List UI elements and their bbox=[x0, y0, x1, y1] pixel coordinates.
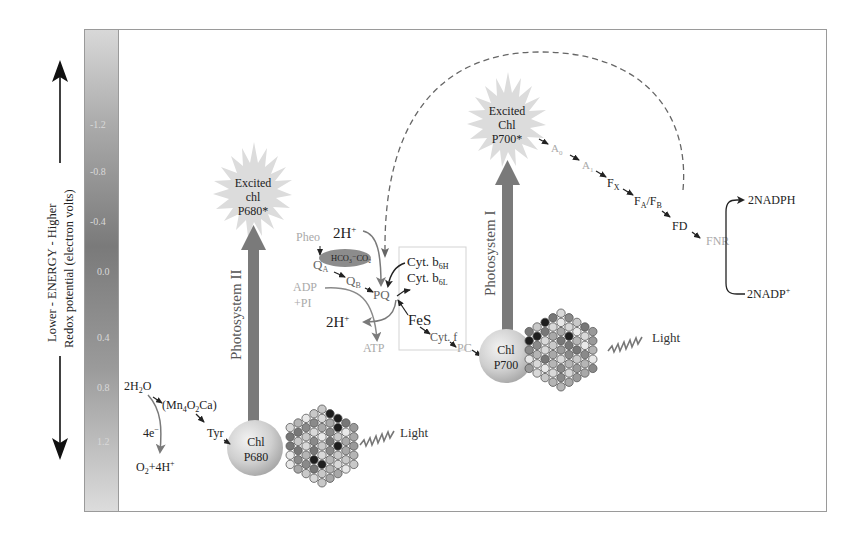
pigment-molecule bbox=[334, 451, 342, 459]
pigment-molecule bbox=[294, 428, 302, 436]
pigment-molecule bbox=[533, 369, 541, 377]
nadp-label: 2NADP+ bbox=[747, 286, 791, 301]
mn-complex-label: (Mn4O2Ca) bbox=[162, 398, 217, 414]
energy-axis: Lower - ENERGY - Higher Redox potential … bbox=[45, 60, 76, 460]
pigment-molecule bbox=[549, 314, 557, 322]
pigment-molecule bbox=[302, 469, 310, 477]
pigment-molecule bbox=[294, 419, 302, 427]
tick-label: 0.8 bbox=[97, 382, 110, 393]
water-label: 2H2O bbox=[124, 379, 152, 395]
pigment-molecule bbox=[589, 364, 597, 372]
bicarbonate-label: HCO₃⁻CO₂ bbox=[331, 253, 371, 263]
pigment-molecule bbox=[549, 378, 557, 386]
pigment-molecule bbox=[318, 423, 326, 431]
tick-label: 0.0 bbox=[97, 266, 110, 277]
pigment-molecule bbox=[541, 337, 549, 345]
pigment-molecule bbox=[334, 414, 342, 422]
pigment-molecule bbox=[589, 355, 597, 363]
tick-label: -0.4 bbox=[90, 216, 106, 227]
pigment-molecule bbox=[318, 414, 326, 422]
adp-label: ADP bbox=[293, 280, 317, 294]
pigment-molecule bbox=[326, 419, 334, 427]
pigment-molecule bbox=[573, 318, 581, 326]
pigment-molecule bbox=[318, 442, 326, 450]
pigment-molecule bbox=[573, 327, 581, 335]
pigment-molecule bbox=[525, 364, 533, 372]
photosystem-1-label: Photosystem I bbox=[482, 211, 498, 296]
pigment-molecule bbox=[350, 460, 358, 468]
pigment-molecule bbox=[350, 423, 358, 431]
pigment-molecule bbox=[286, 442, 294, 450]
pigment-molecule bbox=[541, 318, 549, 326]
pigment-molecule bbox=[310, 456, 318, 464]
pigment-molecule bbox=[541, 346, 549, 354]
pi-label: +PI bbox=[294, 296, 311, 310]
pigment-molecule bbox=[533, 360, 541, 368]
pigment-molecule bbox=[541, 327, 549, 335]
pigment-molecule bbox=[533, 323, 541, 331]
pigment-molecule bbox=[525, 337, 533, 345]
pigment-molecule bbox=[326, 474, 334, 482]
pigment-molecule bbox=[525, 355, 533, 363]
pigment-molecule bbox=[326, 428, 334, 436]
pigment-molecule bbox=[557, 346, 565, 354]
pigment-molecule bbox=[302, 442, 310, 450]
pheo-label: Pheo bbox=[296, 230, 320, 244]
pigment-molecule bbox=[310, 437, 318, 445]
pigment-molecule bbox=[581, 332, 589, 340]
pigment-molecule bbox=[302, 423, 310, 431]
pigment-molecule bbox=[525, 346, 533, 354]
pigment-molecule bbox=[541, 364, 549, 372]
pigment-molecule bbox=[286, 433, 294, 441]
pigment-molecule bbox=[302, 451, 310, 459]
pigment-molecule bbox=[318, 479, 326, 487]
pigment-molecule bbox=[581, 341, 589, 349]
pigment-molecule bbox=[310, 465, 318, 473]
pigment-molecule bbox=[342, 446, 350, 454]
pigment-molecule bbox=[557, 373, 565, 381]
pigment-molecule bbox=[334, 469, 342, 477]
z-scheme-diagram: -1.2 -0.8 -0.4 0.0 0.4 0.8 1.2 Lower - E… bbox=[0, 0, 847, 541]
pigment-molecule bbox=[565, 360, 573, 368]
pigment-molecule bbox=[557, 327, 565, 335]
pigment-molecule bbox=[525, 327, 533, 335]
products-label: O2+4H+ bbox=[136, 459, 175, 476]
pigment-molecule bbox=[541, 373, 549, 381]
excited-label: Excited bbox=[489, 104, 526, 118]
pigment-molecule bbox=[310, 474, 318, 482]
diagram-frame bbox=[85, 30, 827, 512]
pigment-molecule bbox=[573, 346, 581, 354]
p700-excited-label: P700* bbox=[492, 132, 523, 146]
pigment-molecule bbox=[557, 309, 565, 317]
nadph-label: 2NADPH bbox=[748, 193, 796, 207]
tick-label: -1.2 bbox=[90, 119, 106, 130]
pigment-molecule bbox=[549, 350, 557, 358]
pigment-molecule bbox=[565, 332, 573, 340]
tick-label: -0.8 bbox=[90, 166, 106, 177]
pigment-molecule bbox=[557, 355, 565, 363]
pigment-molecule bbox=[557, 337, 565, 345]
pigment-molecule bbox=[294, 456, 302, 464]
pigment-molecule bbox=[573, 373, 581, 381]
pigment-molecule bbox=[533, 341, 541, 349]
chl-label: Chl bbox=[497, 343, 515, 357]
pigment-molecule bbox=[310, 419, 318, 427]
pigment-molecule bbox=[310, 410, 318, 418]
pigment-molecule bbox=[334, 442, 342, 450]
pigment-molecule bbox=[557, 318, 565, 326]
pigment-molecule bbox=[557, 364, 565, 372]
excited-label: Excited bbox=[235, 176, 272, 190]
pigment-molecule bbox=[334, 423, 342, 431]
fd-label: FD bbox=[672, 219, 688, 233]
cyt-f-label: Cyt. f bbox=[430, 330, 457, 344]
pigment-molecule bbox=[565, 369, 573, 377]
pigment-molecule bbox=[334, 433, 342, 441]
pigment-molecule bbox=[549, 323, 557, 331]
tick-label: 1.2 bbox=[97, 436, 110, 447]
pigment-molecule bbox=[565, 350, 573, 358]
pigment-molecule bbox=[549, 369, 557, 377]
pigment-molecule bbox=[557, 383, 565, 391]
pigment-molecule bbox=[581, 350, 589, 358]
pigment-molecule bbox=[589, 327, 597, 335]
pigment-molecule bbox=[573, 337, 581, 345]
